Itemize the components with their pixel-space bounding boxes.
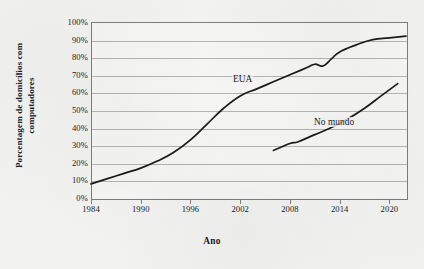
series-label-eua: EUA (232, 74, 253, 84)
x-axis-tick: 1984 (71, 205, 111, 214)
x-axis-tick: 2020 (369, 205, 409, 214)
x-axis-title: Ano (0, 236, 424, 246)
x-axis-tick-labels: 1984199019962002200820142020 (0, 200, 424, 220)
x-axis-tick: 2008 (270, 205, 310, 214)
series-lines (0, 0, 424, 269)
chart-figure: Porcentagem de domicílios com computador… (0, 0, 424, 269)
x-axis-tick: 1996 (170, 205, 210, 214)
series-label-no-mundo: No mundo (313, 117, 355, 127)
x-axis-tick: 2014 (320, 205, 360, 214)
x-axis-tick: 2002 (220, 205, 260, 214)
x-axis-tick: 1990 (121, 205, 161, 214)
series-line-eua (91, 36, 406, 184)
